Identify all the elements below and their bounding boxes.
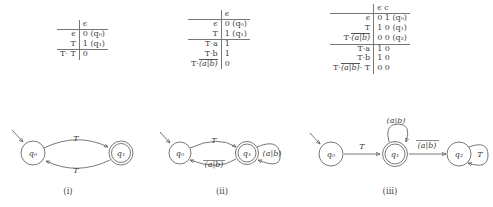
row-value: 1: [221, 50, 250, 59]
edge-selfloop-q1: [388, 124, 408, 142]
row-expression: T: [330, 24, 374, 33]
derivative-table-2: ϵ ϵ 0 (q₀) T 1 (q₁) T·a 1 T·b 1 T·(a|b) …: [188, 10, 250, 69]
table-row: T·(a|b) 0 0 (q₂): [330, 33, 410, 44]
edge-label-q1-q2: (a|b): [418, 141, 437, 150]
derivative-table-1: ϵ ϵ 0 (q₀) T 1 (q₁) T· T 0: [57, 20, 108, 60]
row-expression: T·(a|b): [330, 33, 374, 44]
row-value: 0 0 (q₂): [374, 33, 410, 44]
table-footer-row: T·b 1: [188, 50, 250, 59]
table-footer-row: T· T 0: [57, 50, 108, 60]
row-expression: T·b: [330, 54, 374, 63]
expr-overlined-term: (a|b): [341, 63, 360, 72]
edge-label-selfloop-q1: (a|b): [263, 149, 282, 158]
expr-prefix: T·: [343, 33, 351, 42]
row-expression: T· T: [57, 50, 79, 60]
edge-label-q1-q0: T: [73, 166, 79, 175]
table-row: T 1 0 (q₁): [330, 24, 410, 33]
caption-i: (i): [48, 186, 88, 196]
edge-label-q0-q1: T: [73, 134, 79, 143]
row-value: 1 0: [374, 54, 410, 63]
row-expression: T·(a|b): [188, 59, 221, 69]
row-value: 0: [221, 59, 250, 69]
edge-label-q0-q1: T: [359, 142, 365, 151]
row-expression: T·(a|b)· T: [330, 63, 374, 73]
automaton-i: q₀ q₁ T T: [2, 122, 152, 192]
state-label-q1: q₁: [391, 150, 399, 159]
row-expression: T·b: [188, 50, 221, 59]
table-row: T 1 (q₁): [188, 30, 250, 40]
edge-label-selfloop-q1: (a|b): [387, 118, 406, 125]
edge-label-q1-q0: (a|b): [205, 160, 224, 169]
automaton-ii: q₀ q₁ T (a|b) (a|b): [158, 122, 293, 192]
state-label-q1: q₁: [243, 149, 251, 158]
expr-overlined-term: (a|b): [351, 33, 370, 42]
automaton-iii: q₀ T q₁ (a|b) (a|b) q₂ T: [296, 118, 492, 194]
expr-prefix: T·: [333, 63, 341, 72]
expr-prefix: T·: [191, 59, 199, 68]
expr-overlined-term: (a|b): [199, 59, 218, 68]
state-label-q2: q₂: [455, 150, 463, 159]
state-label-q0: q₀: [29, 149, 38, 158]
table-footer-row: T·(a|b) 0: [188, 59, 250, 69]
derivative-table-3: ϵ c ϵ 0 1 (q₀) T 1 0 (q₁) T·(a|b) 0 0 (q…: [330, 4, 410, 74]
row-value: 0 0: [374, 63, 410, 73]
table-footer-row: T·(a|b)· T 0 0: [330, 63, 410, 73]
state-label-q0: q₀: [176, 149, 185, 158]
caption-ii: (ii): [202, 186, 242, 196]
state-label-q1: q₁: [117, 149, 125, 158]
start-arrow-q0: [310, 133, 320, 144]
row-value: 1 0 (q₁): [374, 24, 410, 33]
caption-iii: (iii): [370, 186, 410, 196]
table-footer-row: T·b 1 0: [330, 54, 410, 63]
table-footer-row: T·a 1: [188, 40, 250, 50]
start-arrow-q0: [12, 130, 23, 142]
start-arrow-q0: [160, 132, 170, 143]
edge-label-q0-q1: T: [211, 136, 217, 145]
row-value: 0: [79, 50, 108, 60]
edge-label-selfloop-q2: T: [477, 150, 483, 159]
state-label-q0: q₀: [327, 150, 336, 159]
expr-suffix: · T: [360, 63, 370, 72]
